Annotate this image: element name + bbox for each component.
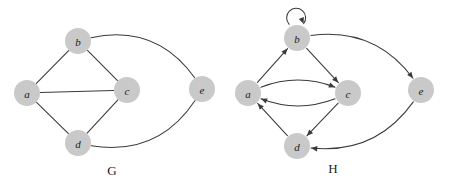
node-h-a-label: a	[245, 88, 251, 100]
edge-h-a-to-c	[261, 80, 335, 87]
node-h-b-label: b	[294, 33, 300, 45]
edge-h-b-to-b-arrowhead	[299, 17, 304, 24]
edge-g-b-to-e	[91, 35, 195, 78]
edge-h-d-to-a	[258, 103, 288, 135]
edge-h-e-to-d	[311, 102, 413, 149]
edge-g-a-to-d	[37, 102, 69, 133]
edge-g-c-to-d	[87, 100, 118, 133]
edge-h-a-to-b	[257, 49, 287, 83]
node-g-b-label: b	[75, 36, 81, 48]
node-g-d-label: d	[75, 138, 81, 150]
graph-caption-h: H	[328, 161, 337, 176]
edge-h-e-to-d-arrowhead	[311, 146, 317, 151]
edges-layer	[36, 8, 413, 151]
edge-h-c-to-d	[307, 103, 338, 136]
edge-h-c-to-a	[261, 99, 335, 106]
edge-g-a-to-b	[36, 51, 68, 84]
edge-g-b-to-c	[87, 50, 117, 80]
node-g-a-label: a	[24, 88, 30, 100]
graph-caption-g: G	[107, 163, 116, 178]
captions-layer: GH	[107, 161, 337, 178]
edge-h-b-to-e	[311, 34, 413, 78]
graph-canvas: abcdeabcde GH	[0, 0, 449, 188]
node-h-e-label: e	[419, 85, 424, 97]
graph-figure: abcdeabcde GH	[0, 0, 449, 188]
node-g-e-label: e	[200, 84, 205, 96]
node-g-c-label: c	[125, 85, 130, 97]
node-h-c-label: c	[346, 88, 351, 100]
edge-h-c-to-a-arrowhead	[261, 99, 268, 104]
edge-h-a-to-c-arrowhead	[328, 82, 335, 87]
edge-g-d-to-e	[91, 100, 195, 147]
node-h-d-label: d	[294, 141, 300, 153]
edge-h-b-to-c	[307, 48, 339, 82]
edge-g-a-to-c	[40, 90, 113, 92]
